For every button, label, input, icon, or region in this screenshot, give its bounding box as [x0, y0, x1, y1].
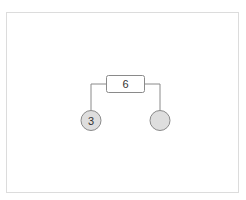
edge-root-to-left-child: [91, 84, 106, 110]
edge-root-to-right-child: [144, 84, 160, 110]
left-child-node[interactable]: 3: [81, 111, 101, 131]
diagram-canvas: 6 3: [0, 0, 246, 200]
left-child-label: 3: [88, 115, 94, 127]
root-node-label: 6: [122, 78, 128, 90]
right-child-node[interactable]: [150, 111, 170, 131]
tree-diagram: 6 3: [0, 0, 246, 200]
root-node[interactable]: 6: [107, 76, 145, 93]
right-child-circle: [150, 111, 170, 131]
